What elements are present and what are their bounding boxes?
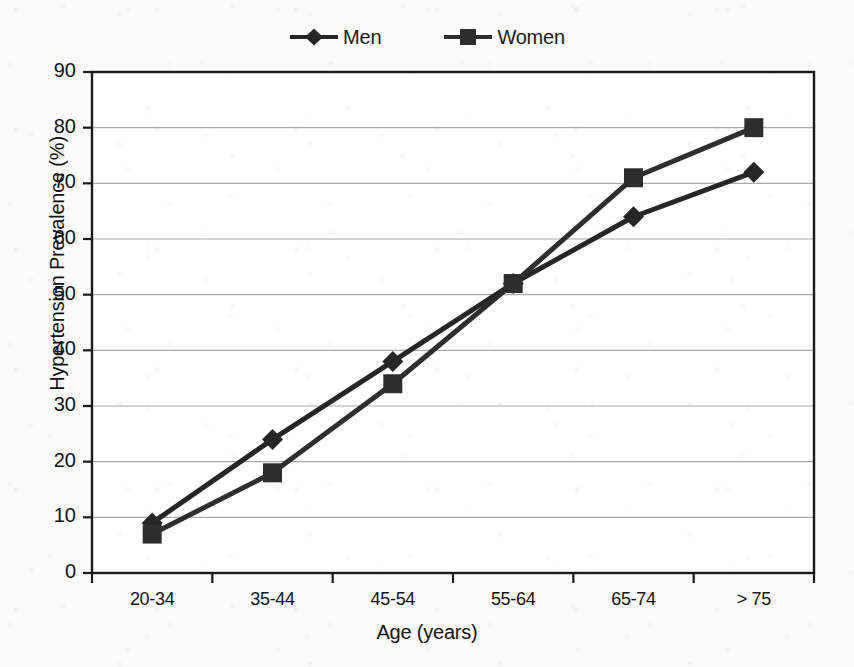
legend-label-women: Women xyxy=(497,27,565,47)
x-tick-label: 65-74 xyxy=(574,589,694,610)
y-tick-label: 80 xyxy=(24,115,76,138)
x-tick-label: > 75 xyxy=(694,589,814,610)
legend-entry-men[interactable]: Men xyxy=(289,26,381,48)
square-marker-icon xyxy=(443,26,493,48)
x-tick-label: 20-34 xyxy=(92,589,212,610)
data-point-women[interactable] xyxy=(744,118,763,137)
data-point-women[interactable] xyxy=(624,168,643,187)
y-tick-label: 20 xyxy=(24,449,76,472)
data-point-women[interactable] xyxy=(504,274,523,293)
y-tick-label: 0 xyxy=(24,560,76,583)
x-tick-label: 55-64 xyxy=(453,589,573,610)
hypertension-prevalence-line-chart: Men Women Hypertension Prevalence (%) Ag… xyxy=(0,0,854,667)
chart-legend: Men Women xyxy=(0,26,854,48)
data-point-women[interactable] xyxy=(263,463,282,482)
y-tick-label: 40 xyxy=(24,337,76,360)
legend-entry-women[interactable]: Women xyxy=(443,26,565,48)
y-tick-label: 30 xyxy=(24,393,76,416)
x-tick-label: 45-54 xyxy=(333,589,453,610)
diamond-marker-icon xyxy=(289,26,339,48)
data-point-women[interactable] xyxy=(383,374,402,393)
x-tick-label: 35-44 xyxy=(213,589,333,610)
y-tick-label: 90 xyxy=(24,59,76,82)
y-tick-label: 60 xyxy=(24,226,76,249)
y-tick-label: 70 xyxy=(24,170,76,193)
y-tick-label: 50 xyxy=(24,282,76,305)
y-tick-label: 10 xyxy=(24,504,76,527)
legend-label-men: Men xyxy=(343,27,381,47)
x-axis-title: Age (years) xyxy=(0,621,854,644)
plot-area xyxy=(0,0,854,667)
data-point-women[interactable] xyxy=(143,525,162,544)
